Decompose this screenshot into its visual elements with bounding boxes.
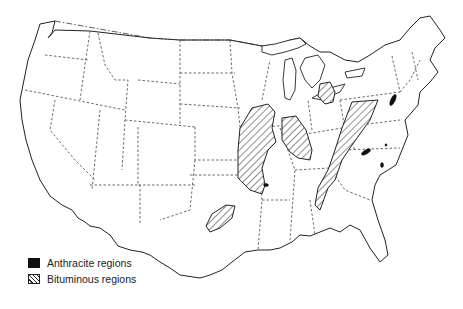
lake-huron	[300, 55, 325, 88]
lake-ontario	[345, 68, 365, 78]
canada-border	[55, 21, 262, 46]
map-legend: Anthracite regions Bituminous regions	[28, 255, 136, 287]
solid-black-swatch-icon	[28, 258, 40, 268]
legend-item-bituminous: Bituminous regions	[28, 271, 136, 287]
legend-label-bituminous: Bituminous regions	[47, 273, 136, 285]
bituminous-michigan	[318, 82, 335, 104]
lake-michigan	[283, 58, 296, 100]
us-coastline	[20, 16, 445, 278]
bituminous-western-interior	[282, 116, 312, 160]
legend-label-anthracite: Anthracite regions	[47, 257, 132, 269]
hatched-swatch-icon	[28, 274, 40, 284]
bituminous-appalachian	[315, 100, 378, 210]
bituminous-texas	[206, 205, 235, 232]
bituminous-illinois	[238, 104, 276, 194]
lake-superior	[262, 38, 306, 55]
bituminous-regions	[206, 82, 378, 232]
legend-item-anthracite: Anthracite regions	[28, 255, 136, 271]
